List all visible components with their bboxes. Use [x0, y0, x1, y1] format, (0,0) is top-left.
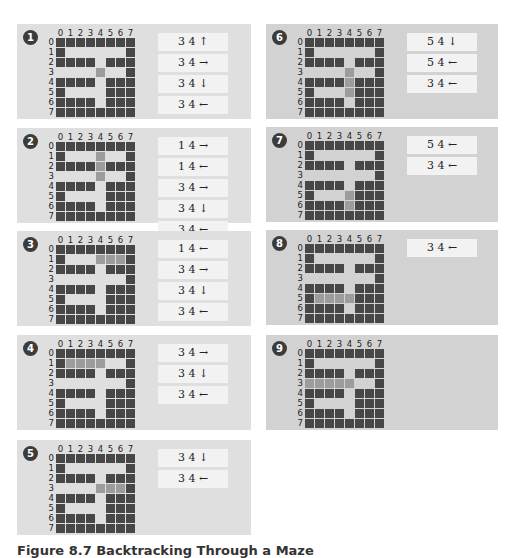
maze-wall-cell	[315, 314, 324, 323]
maze-wall-cell	[325, 284, 334, 293]
row-labels: 01234567	[295, 38, 303, 118]
maze-wall-cell	[126, 399, 135, 408]
maze-open-cell	[325, 399, 334, 408]
column-label: 3	[86, 28, 95, 38]
maze-path-cell	[305, 379, 314, 388]
maze-open-cell	[96, 265, 105, 274]
row-label: 1	[46, 359, 54, 368]
maze-wall-cell	[335, 419, 344, 428]
column-label: 3	[335, 131, 344, 141]
maze-wall-cell	[126, 484, 135, 493]
maze-wall-cell	[315, 161, 324, 170]
figure-caption: Figure 8.7 Backtracking Through a Maze	[17, 543, 314, 558]
maze-wall-cell	[56, 349, 65, 358]
maze-wall-cell	[365, 399, 374, 408]
maze-wall-cell	[126, 182, 135, 191]
maze-open-cell	[96, 202, 105, 211]
row-label: 6	[295, 409, 303, 418]
maze-wall-cell	[375, 78, 384, 87]
stack-frame: 3 4 ←	[407, 239, 477, 257]
maze-wall-cell	[56, 108, 65, 117]
row-label: 2	[46, 58, 54, 67]
maze-wall-cell	[315, 211, 324, 220]
maze-wall-cell	[305, 264, 314, 273]
maze-wall-cell	[56, 245, 65, 254]
stack-frame: 3 4 ←	[158, 470, 228, 488]
maze-wall-cell	[345, 38, 354, 47]
maze-wall-cell	[305, 108, 314, 117]
maze-wall-cell	[375, 264, 384, 273]
column-label: 0	[56, 132, 65, 142]
maze-wall-cell	[305, 211, 314, 220]
maze-wall-cell	[375, 294, 384, 303]
maze-wall-cell	[345, 244, 354, 253]
maze-wall-cell	[365, 409, 374, 418]
maze-wall-cell	[106, 295, 115, 304]
maze-open-cell	[56, 172, 65, 181]
maze-wall-cell	[76, 349, 85, 358]
maze-open-cell	[66, 464, 75, 473]
maze-open-cell	[86, 172, 95, 181]
maze-wall-cell	[355, 78, 364, 87]
maze-open-cell	[96, 58, 105, 67]
maze-open-cell	[66, 192, 75, 201]
maze-open-cell	[325, 171, 334, 180]
maze-wall-cell	[345, 211, 354, 220]
stack-frame: 1 4 ←	[158, 158, 228, 176]
stack-frame: 5 4 ↓	[407, 33, 477, 51]
maze-wall-cell	[315, 141, 324, 150]
maze-wall-cell	[355, 419, 364, 428]
backtrack-stack: 5 4 ↓5 4 ←3 4 ←	[407, 33, 477, 96]
maze-wall-cell	[305, 161, 314, 170]
maze-wall-cell	[106, 305, 115, 314]
maze-wall-cell	[116, 182, 125, 191]
maze-open-cell	[96, 305, 105, 314]
maze-wall-cell	[86, 474, 95, 483]
maze-wall-cell	[86, 409, 95, 418]
row-label: 1	[46, 464, 54, 473]
step-number-badge: 2	[23, 134, 38, 149]
maze-path-cell	[345, 294, 354, 303]
maze-wall-cell	[66, 494, 75, 503]
maze-wall-cell	[365, 389, 374, 398]
maze-wall-cell	[335, 161, 344, 170]
maze-path-cell	[116, 484, 125, 493]
maze-wall-cell	[106, 349, 115, 358]
maze-wall-cell	[86, 305, 95, 314]
maze-wall-cell	[56, 162, 65, 171]
maze-wall-cell	[86, 142, 95, 151]
maze-open-cell	[86, 88, 95, 97]
stack-frame: 3 4 ↓	[158, 75, 228, 93]
maze-wall-cell	[315, 349, 324, 358]
maze-open-cell	[66, 399, 75, 408]
maze-wall-cell	[365, 108, 374, 117]
column-label: 0	[56, 339, 65, 349]
row-label: 4	[46, 285, 54, 294]
maze-wall-cell	[66, 202, 75, 211]
maze-open-cell	[86, 152, 95, 161]
column-label: 4	[345, 28, 354, 38]
maze-wall-cell	[355, 98, 364, 107]
maze-grid	[56, 142, 135, 221]
maze-wall-cell	[116, 58, 125, 67]
maze-wall-cell	[335, 349, 344, 358]
maze-wall-cell	[345, 141, 354, 150]
maze-wall-cell	[375, 58, 384, 67]
column-label: 3	[335, 339, 344, 349]
maze-wall-cell	[66, 419, 75, 428]
maze-open-cell	[96, 192, 105, 201]
maze-grid	[56, 245, 135, 324]
panel-6: 601234567012345675 4 ↓5 4 ←3 4 ←	[266, 24, 498, 119]
maze-wall-cell	[106, 202, 115, 211]
maze-wall-cell	[365, 264, 374, 273]
maze-path-cell	[335, 379, 344, 388]
maze-wall-cell	[315, 181, 324, 190]
row-labels: 01234567	[295, 244, 303, 324]
maze-path-cell	[325, 294, 334, 303]
maze-open-cell	[96, 98, 105, 107]
maze-open-cell	[56, 484, 65, 493]
maze-wall-cell	[56, 524, 65, 533]
column-label: 2	[76, 339, 85, 349]
maze-grid	[305, 38, 384, 117]
maze-path-cell	[86, 359, 95, 368]
